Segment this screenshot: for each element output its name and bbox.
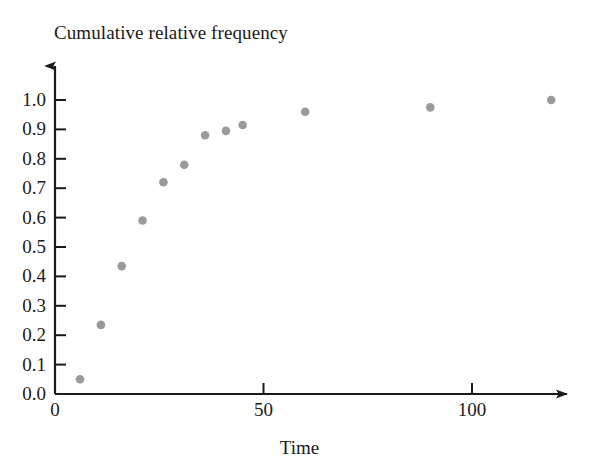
data-point <box>301 107 310 116</box>
data-point <box>547 96 556 105</box>
data-point <box>180 160 189 169</box>
y-axis-ticks <box>55 100 66 365</box>
data-point-group <box>76 96 556 384</box>
y-tick-label: 0.2 <box>0 324 46 346</box>
y-tick-label: 0.4 <box>0 265 46 287</box>
data-point <box>159 178 168 187</box>
data-point <box>201 131 210 140</box>
data-point <box>426 103 435 112</box>
x-axis-ticks <box>264 383 473 394</box>
data-point <box>76 375 85 384</box>
data-point <box>97 321 106 330</box>
x-tick-label: 100 <box>442 399 502 421</box>
y-tick-label: 0.9 <box>0 118 46 140</box>
data-point <box>238 121 247 130</box>
data-point <box>117 262 126 271</box>
y-tick-label: 0.3 <box>0 295 46 317</box>
y-tick-label: 0.6 <box>0 207 46 229</box>
data-point <box>222 127 231 136</box>
x-tick-label: 0 <box>25 399 85 421</box>
x-tick-label: 50 <box>234 399 294 421</box>
y-tick-label: 0.8 <box>0 148 46 170</box>
x-axis-title: Time <box>0 437 599 459</box>
scatter-plot-canvas <box>0 0 599 473</box>
y-tick-label: 0.7 <box>0 177 46 199</box>
data-point <box>138 216 147 225</box>
y-tick-label: 1.0 <box>0 89 46 111</box>
chart-figure: Cumulative relative frequency 0.00.10.20… <box>0 0 599 473</box>
y-tick-label: 0.1 <box>0 354 46 376</box>
y-tick-label: 0.5 <box>0 236 46 258</box>
